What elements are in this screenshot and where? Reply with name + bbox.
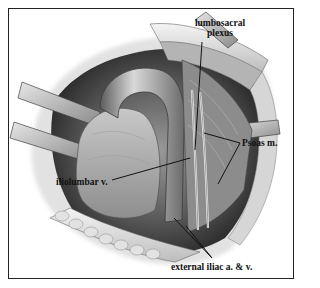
- label-iliolumbar-vein: iliolumbar v.: [56, 177, 108, 187]
- label-lumbosacral-plexus: lumbosacral plexus: [180, 18, 260, 38]
- label-psoas-muscle: Psoas m.: [242, 138, 277, 148]
- label-external-iliac: external iliac a. & v.: [171, 262, 252, 272]
- peritoneal-sac: [76, 108, 160, 218]
- label-line-2: plexus: [180, 28, 260, 38]
- label-line-1: lumbosacral: [180, 18, 260, 28]
